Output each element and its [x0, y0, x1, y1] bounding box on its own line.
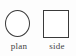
projection-view-plan: plan — [0, 0, 38, 56]
view-label-side: side — [38, 41, 76, 52]
orthographic-projection-figure: plan side — [0, 0, 76, 56]
square-outline-icon — [43, 10, 69, 38]
circle-outline-icon — [5, 10, 30, 37]
projection-view-side: side — [38, 0, 76, 56]
view-label-plan: plan — [0, 41, 38, 52]
side-shape-slot — [38, 0, 76, 42]
plan-shape-slot — [0, 0, 38, 42]
